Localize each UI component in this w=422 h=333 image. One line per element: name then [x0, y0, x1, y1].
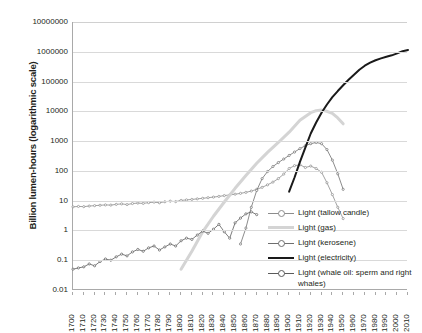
x-axis-tick-labels: 1700171017201730174017501760177017801790… [72, 292, 407, 333]
x-tick-label: 1930 [316, 292, 326, 333]
x-tick-label: 1860 [240, 292, 250, 333]
data-point [266, 184, 268, 186]
x-tick-label: 2010 [402, 292, 412, 333]
gridline [73, 22, 407, 23]
data-point [315, 167, 317, 169]
gridline [73, 141, 407, 142]
chart-legend: Light (tallow candle)Light (gas)Light (k… [268, 208, 420, 294]
legend-marker-icon [278, 210, 285, 217]
x-tick-label: 2000 [391, 292, 401, 333]
data-point [250, 190, 252, 192]
legend-item[interactable]: Light (whale oil: sperm and right whales… [268, 268, 420, 289]
gridline [73, 82, 407, 83]
data-point [331, 193, 333, 195]
gridline [73, 52, 407, 53]
data-point [175, 245, 177, 247]
data-point [83, 266, 85, 268]
data-point [299, 148, 301, 150]
data-point [283, 158, 285, 160]
data-point [158, 202, 160, 204]
legend-item[interactable]: Light (kerosene) [268, 238, 420, 249]
data-point [283, 173, 285, 175]
data-point [88, 205, 90, 207]
data-point [250, 211, 252, 213]
legend-item[interactable]: Light (tallow candle) [268, 208, 420, 219]
data-point [304, 166, 306, 168]
x-tick-label: 1940 [326, 292, 336, 333]
data-point [218, 223, 220, 225]
data-point [137, 248, 139, 250]
legend-swatch-icon [268, 208, 294, 218]
x-tick-label: 1790 [164, 292, 174, 333]
x-tick-label: 1920 [305, 292, 315, 333]
legend-marker-icon [278, 270, 285, 277]
x-tick-label: 1950 [337, 292, 347, 333]
data-point [121, 253, 123, 255]
data-point [320, 143, 322, 145]
data-point [110, 204, 112, 206]
legend-item-label: Light (gas) [298, 223, 420, 234]
gridline [73, 201, 407, 202]
legend-swatch-icon [268, 238, 294, 248]
data-point [153, 245, 155, 247]
data-point [77, 267, 79, 269]
x-tick-label: 1700 [67, 292, 77, 333]
y-tick-label: 10000 [4, 107, 68, 115]
data-point [148, 202, 150, 204]
x-tick-label: 1980 [370, 292, 380, 333]
y-tick-label: 100000 [4, 78, 68, 86]
legend-item[interactable]: Light (gas) [268, 223, 420, 234]
data-point [256, 214, 258, 216]
y-tick-label: 0.01 [4, 286, 68, 294]
data-point [207, 232, 209, 234]
data-point [72, 268, 74, 270]
data-point [126, 255, 128, 257]
legend-item-label: Light (tallow candle) [298, 208, 420, 219]
data-point [212, 196, 214, 198]
x-tick-label: 1780 [153, 292, 163, 333]
data-point [245, 227, 247, 229]
data-point [196, 234, 198, 236]
data-point [245, 213, 247, 215]
data-point [142, 202, 144, 204]
x-tick-label: 1740 [110, 292, 120, 333]
legend-item[interactable]: Light (electricity) [268, 253, 420, 264]
data-point [94, 205, 96, 207]
data-point [288, 154, 290, 156]
data-point [158, 249, 160, 251]
data-point [245, 191, 247, 193]
x-tick-label: 1800 [175, 292, 185, 333]
x-tick-label: 1850 [229, 292, 239, 333]
data-point [261, 178, 263, 180]
data-point [310, 165, 312, 167]
data-point [239, 217, 241, 219]
data-point [142, 250, 144, 252]
data-point [342, 188, 344, 190]
data-point [72, 206, 74, 208]
data-point [293, 151, 295, 153]
data-point [115, 256, 117, 258]
x-tick-label: 1830 [207, 292, 217, 333]
data-point [331, 159, 333, 161]
x-tick-label: 1840 [218, 292, 228, 333]
x-tick-label: 1760 [132, 292, 142, 333]
data-point [239, 192, 241, 194]
x-tick-label: 1970 [359, 292, 369, 333]
legend-item-label: Light (kerosene) [298, 238, 420, 249]
x-tick-label: 1720 [89, 292, 99, 333]
x-tick-label: 1880 [262, 292, 272, 333]
data-point [239, 243, 241, 245]
data-point [234, 193, 236, 195]
x-tick-label: 1750 [121, 292, 131, 333]
data-point [272, 181, 274, 183]
legend-marker-icon [278, 240, 285, 247]
data-point [337, 173, 339, 175]
data-point [250, 206, 252, 208]
chart-container: Billion lumen-hours (logarithmic scale) … [0, 0, 422, 333]
data-point [288, 167, 290, 169]
x-tick-label: 1890 [272, 292, 282, 333]
legend-swatch-icon [268, 223, 294, 233]
x-tick-label: 1900 [283, 292, 293, 333]
y-tick-label: 10000000 [4, 18, 68, 26]
data-point [137, 202, 139, 204]
